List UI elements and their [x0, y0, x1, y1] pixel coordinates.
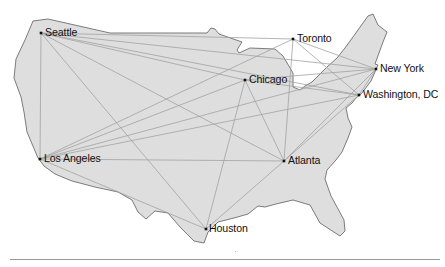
city-dot-new-york — [375, 68, 378, 71]
city-label-atlanta: Atlanta — [288, 155, 320, 167]
city-label-chicago: Chicago — [249, 74, 287, 86]
city-dot-chicago — [244, 79, 247, 82]
city-dot-washington-dc — [358, 94, 361, 97]
bottom-divider — [10, 259, 440, 260]
city-label-toronto: Toronto — [297, 33, 332, 45]
city-label-new-york: New York — [380, 63, 424, 75]
city-label-los-angeles: Los Angeles — [44, 153, 101, 165]
city-label-washington-dc: Washington, DC — [363, 89, 438, 101]
city-label-houston: Houston — [209, 223, 248, 235]
city-dot-los-angeles — [39, 158, 42, 161]
city-dot-toronto — [292, 38, 295, 41]
city-dot-atlanta — [283, 160, 286, 163]
city-dot-seattle — [40, 32, 43, 35]
city-dot-houston — [205, 228, 208, 231]
city-label-seattle: Seattle — [45, 27, 77, 39]
scan-speck — [235, 251, 236, 252]
